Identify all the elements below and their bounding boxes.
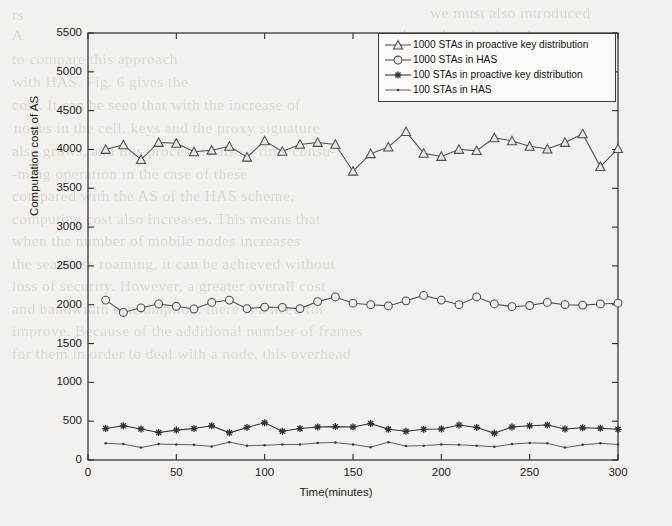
circle-glyph [420,292,428,300]
dot-marker [334,441,337,444]
dot-glyph [140,446,143,449]
triangle-marker [401,127,410,136]
dot-glyph [599,442,602,445]
asterisk-marker [102,425,109,432]
circle-glyph [190,305,198,313]
asterisk-marker [526,422,533,429]
legend-label: 1000 STAs in HAS [413,53,497,67]
triangle-marker [366,149,375,158]
asterisk-marker [473,424,480,431]
series-1 [102,292,622,317]
triangle-marker [225,142,234,151]
circle-marker [561,301,569,309]
asterisk-marker [509,424,516,431]
y-tick-label: 1500 [36,337,82,349]
dot-glyph [493,446,496,449]
legend-item: 100 STAs in HAS [383,82,611,97]
y-tick-label: 500 [36,414,82,426]
dot-glyph [581,444,584,447]
circle-glyph [508,303,516,311]
triangle-glyph [490,133,499,142]
dot-marker [352,443,355,446]
asterisk-marker [155,429,162,436]
circle-marker [367,301,375,309]
circle-marker [579,301,587,309]
x-tick-label: 0 [64,466,112,478]
dot-glyph [458,444,461,447]
legend-label: 1000 STAs in proactive key distribution [413,38,588,52]
chart-legend: 1000 STAs in proactive key distribution1… [378,33,616,102]
circle-marker [172,302,180,310]
chart-figure: Computation cost of AS Time(minutes) 050… [0,0,672,526]
circle-glyph [296,305,304,313]
triangle-glyph [366,149,375,158]
series-line [106,442,618,447]
dot-marker [122,443,125,446]
asterisk-marker [367,420,374,427]
series-line [106,132,618,172]
dot-glyph [397,88,400,91]
asterisk-marker [226,429,233,436]
dot-glyph [104,442,107,445]
y-tick-label: 4000 [36,142,82,154]
triangle-glyph [225,142,234,151]
triangle-marker [454,145,463,154]
dot-glyph [299,443,302,446]
triangle-glyph [613,144,622,153]
circle-glyph [437,296,445,304]
circle-glyph [349,299,357,307]
circle-glyph [172,302,180,310]
asterisk-marker [597,425,604,432]
triangle-glyph [560,138,569,147]
dot-marker [397,88,400,91]
legend-label: 100 STAs in HAS [413,83,492,97]
asterisk-marker [403,428,410,435]
triangle-marker [313,138,322,147]
dot-marker [157,443,160,446]
legend-item: 1000 STAs in proactive key distribution [383,37,611,52]
dot-glyph [122,443,125,446]
series-0 [101,127,623,175]
series-3 [104,441,619,449]
dot-marker [210,445,213,448]
circle-glyph [614,299,622,307]
circle-marker [102,296,110,304]
dot-glyph [405,445,408,448]
circle-glyph [596,300,604,308]
asterisk-marker [456,422,463,429]
asterisk-marker [350,424,357,431]
asterisk-marker [438,425,445,432]
triangle-marker [260,136,269,145]
asterisk-marker [420,426,427,433]
asterisk-marker [579,424,586,431]
dot-marker [369,446,372,449]
circle-marker [437,296,445,304]
dot-glyph [422,444,425,447]
circle-marker [190,305,198,313]
circle-glyph [473,293,481,301]
asterisk-marker [615,426,622,433]
dot-marker [387,441,390,444]
dot-marker [440,443,443,446]
y-tick-label: 0 [36,453,82,465]
asterisk-marker [191,425,198,432]
dot-marker [383,83,413,97]
circle-glyph [455,301,463,309]
circle-marker [383,53,413,67]
circle-marker [278,304,286,312]
dot-glyph [564,446,567,449]
circle-marker [473,293,481,301]
dot-marker [140,446,143,449]
dot-glyph [316,442,319,445]
circle-marker [225,296,233,304]
triangle-glyph [454,145,463,154]
x-axis-label: Time(minutes) [0,486,672,498]
circle-glyph [579,301,587,309]
legend-item: 1000 STAs in HAS [383,52,611,67]
dot-marker [564,446,567,449]
triangle-marker [578,129,587,138]
y-tick-label: 2500 [36,259,82,271]
legend-item: 100 STAs in proactive key distribution [383,67,611,82]
circle-marker [543,298,551,306]
circle-marker [596,300,604,308]
